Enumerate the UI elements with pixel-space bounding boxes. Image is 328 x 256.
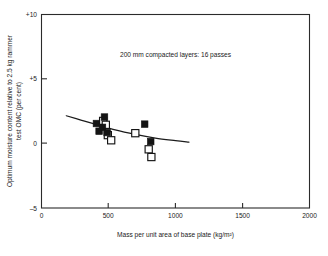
chart-svg: 0 500 1000 1500 2000 +10 +5 0 –5 Optimum…: [0, 0, 328, 256]
data-point: [101, 114, 108, 121]
x-tick-label-2000: 2000: [302, 212, 317, 219]
data-point: [148, 153, 155, 160]
data-point: [141, 121, 148, 128]
x-tick-label-1000: 1000: [168, 212, 183, 219]
y-axis-title-line2: test OMC (per cent): [15, 82, 23, 140]
y-tick-label-minus5: –5: [30, 205, 38, 212]
data-point: [104, 129, 111, 136]
x-tick-label-0: 0: [40, 212, 44, 219]
plot-annotation: 200 mm compacted layers: 16 passes: [120, 51, 232, 59]
y-axis-title-line1: Optimum moisture content relative to 2.5…: [6, 34, 14, 187]
filled-square-markers: [93, 114, 154, 145]
data-point: [145, 146, 152, 153]
x-axis-title: Mass per unit area of base plate (kg/m²): [117, 231, 234, 239]
chart-figure: 0 500 1000 1500 2000 +10 +5 0 –5 Optimum…: [0, 0, 328, 256]
plot-frame: [42, 15, 310, 209]
data-point: [147, 138, 154, 145]
data-point: [132, 130, 139, 137]
y-tick-label-plus5: +5: [29, 75, 37, 82]
data-point: [108, 137, 115, 144]
data-point: [93, 120, 100, 127]
y-tick-label-plus10: +10: [26, 11, 38, 18]
trend-curve: [66, 116, 189, 142]
y-axis-ticks: [42, 79, 48, 143]
x-tick-label-1500: 1500: [235, 212, 250, 219]
x-tick-label-500: 500: [103, 212, 114, 219]
x-axis-ticks: [108, 203, 242, 208]
y-tick-label-0: 0: [33, 140, 37, 147]
